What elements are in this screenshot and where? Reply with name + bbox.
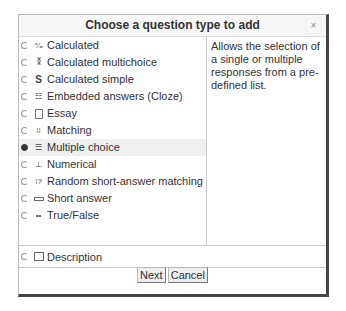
essay-icon: [33, 108, 44, 119]
calculated-multichoice-icon: ⁑: [33, 57, 44, 68]
calculated-icon: ⁺⁄₌: [33, 40, 44, 51]
close-button[interactable]: ×: [305, 18, 322, 34]
option-description[interactable]: Description: [19, 245, 326, 268]
option-random-matching[interactable]: ⁞?Random short-answer matching: [19, 173, 206, 190]
next-button[interactable]: Next: [137, 267, 166, 283]
option-calculated-simple[interactable]: SCalculated simple: [19, 71, 206, 88]
matching-icon: ⁞⁞: [33, 125, 44, 136]
radio[interactable]: [21, 195, 28, 202]
option-calculated-multichoice[interactable]: ⁑Calculated multichoice: [19, 54, 206, 71]
option-label: Matching: [47, 122, 92, 139]
option-numerical[interactable]: ⊥Numerical: [19, 156, 206, 173]
option-label: Numerical: [47, 156, 97, 173]
option-label: True/False: [47, 207, 99, 224]
option-label: Description: [47, 251, 102, 263]
radio[interactable]: [21, 93, 28, 100]
option-label: Calculated multichoice: [47, 54, 157, 71]
multichoice-icon: ☰: [33, 142, 44, 153]
option-label: Calculated simple: [47, 71, 134, 88]
radio[interactable]: [21, 127, 28, 134]
option-calculated[interactable]: ⁺⁄₌Calculated: [19, 37, 206, 54]
option-true-false[interactable]: ••True/False: [19, 207, 206, 224]
description-icon: [33, 251, 44, 262]
option-label: Short answer: [47, 190, 112, 207]
option-cloze[interactable]: ☷Embedded answers (Cloze): [19, 88, 206, 105]
radio[interactable]: [21, 161, 28, 168]
cloze-icon: ☷: [33, 91, 44, 102]
radio[interactable]: [21, 76, 28, 83]
type-description: Allows the selection of a single or mult…: [208, 37, 326, 95]
radio-selected[interactable]: [21, 144, 28, 151]
radio[interactable]: [21, 178, 28, 185]
cancel-button[interactable]: Cancel: [168, 267, 208, 283]
option-multiple-choice[interactable]: ☰Multiple choice: [19, 139, 206, 156]
option-label: Multiple choice: [47, 139, 120, 156]
radio[interactable]: [21, 110, 28, 117]
radio[interactable]: [21, 42, 28, 49]
option-label: Embedded answers (Cloze): [47, 88, 183, 105]
question-type-list: ⁺⁄₌Calculated ⁑Calculated multichoice SC…: [19, 37, 207, 245]
dialog-titlebar: Choose a question type to add ×: [19, 15, 326, 37]
option-label: Essay: [47, 105, 77, 122]
short-answer-icon: [33, 193, 44, 204]
dialog-title: Choose a question type to add: [85, 18, 260, 32]
option-label: Calculated: [47, 37, 99, 54]
radio[interactable]: [21, 59, 28, 66]
radio[interactable]: [21, 212, 28, 219]
option-matching[interactable]: ⁞⁞Matching: [19, 122, 206, 139]
question-type-dialog: Choose a question type to add × ⁺⁄₌Calcu…: [18, 14, 329, 297]
true-false-icon: ••: [33, 210, 44, 221]
option-label: Random short-answer matching: [47, 173, 203, 190]
calculated-simple-icon: S: [33, 74, 44, 85]
option-short-answer[interactable]: Short answer: [19, 190, 206, 207]
random-matching-icon: ⁞?: [33, 176, 44, 187]
dialog-footer: NextCancel: [19, 267, 326, 283]
option-essay[interactable]: Essay: [19, 105, 206, 122]
radio[interactable]: [21, 253, 28, 260]
numerical-icon: ⊥: [33, 159, 44, 170]
